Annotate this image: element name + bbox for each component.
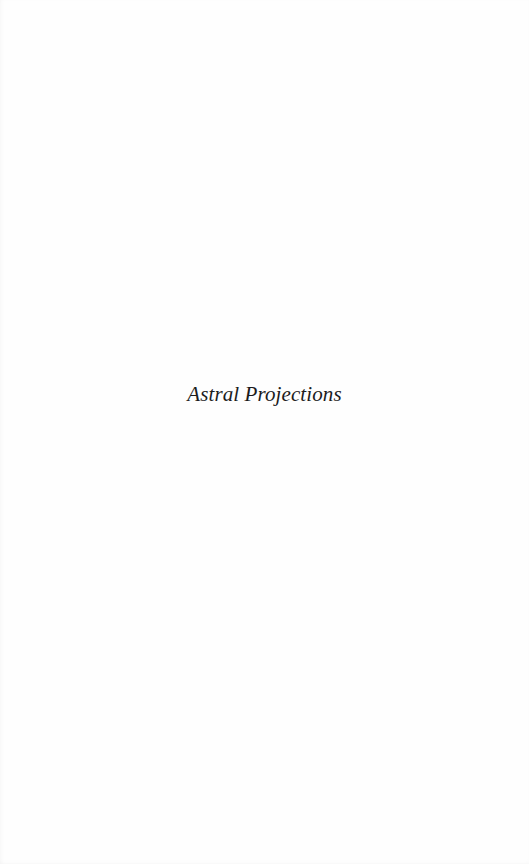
half-title: Astral Projections — [0, 380, 529, 408]
book-page: Astral Projections — [0, 0, 529, 864]
